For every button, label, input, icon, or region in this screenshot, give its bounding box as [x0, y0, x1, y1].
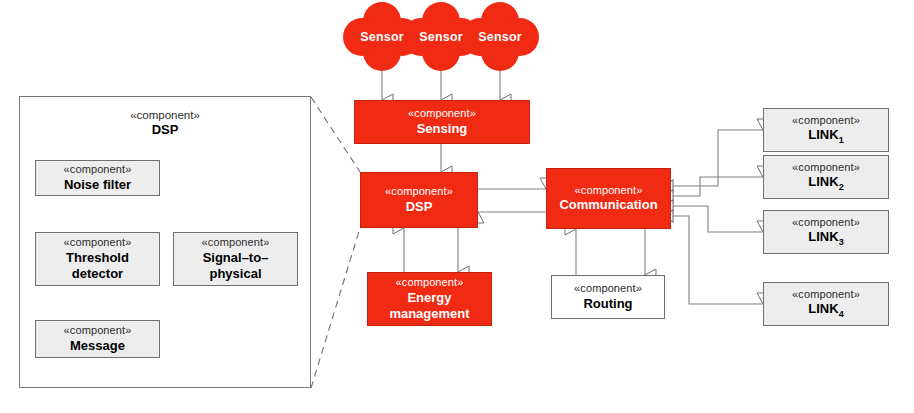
component-name: Communication: [559, 197, 657, 213]
component-sensing[interactable]: «component» Sensing: [354, 100, 530, 144]
component-name-line1: Energy: [407, 290, 451, 306]
component-signal-to-physical[interactable]: «component» Signal–to– physical: [173, 232, 298, 286]
link-name: LINK: [808, 301, 838, 316]
component-stereotype: «component»: [64, 163, 132, 176]
component-noise-filter[interactable]: «component» Noise filter: [35, 160, 160, 196]
link-name: LINK: [808, 229, 838, 244]
component-stereotype: «component»: [202, 236, 270, 249]
edge-communication-link4: [671, 216, 763, 304]
component-name-line2: physical: [209, 266, 261, 282]
detail-panel-stereotype: «component»: [20, 108, 310, 122]
zoom-line-bottom: [311, 228, 360, 388]
detail-panel-title: «component» DSP: [20, 108, 310, 139]
component-stereotype: «component»: [575, 184, 643, 197]
component-stereotype: «component»: [64, 236, 132, 249]
component-link-3[interactable]: «component» LINK3: [763, 210, 889, 254]
component-stereotype: «component»: [408, 107, 476, 120]
link-name: LINK: [808, 174, 838, 189]
detail-panel-name: DSP: [20, 122, 310, 138]
component-name: DSP: [406, 199, 433, 215]
component-message[interactable]: «component» Message: [35, 320, 160, 358]
component-name: LINK2: [808, 174, 843, 193]
uml-component-diagram: Sensor Sensor Sensor: [0, 0, 914, 413]
link-index: 4: [839, 309, 844, 319]
component-dsp[interactable]: «component» DSP: [360, 172, 478, 228]
link-index: 2: [839, 182, 844, 192]
edge-communication-link2: [671, 177, 763, 196]
component-stereotype: «component»: [792, 161, 860, 174]
component-name: LINK4: [808, 301, 843, 320]
component-name: LINK3: [808, 229, 843, 248]
component-communication[interactable]: «component» Communication: [546, 168, 671, 229]
component-link-1[interactable]: «component» LINK1: [763, 108, 889, 152]
sensor-label: Sensor: [458, 2, 542, 72]
component-routing[interactable]: «component» Routing: [551, 275, 665, 319]
component-stereotype: «component»: [385, 185, 453, 198]
component-stereotype: «component»: [792, 216, 860, 229]
component-stereotype: «component»: [792, 288, 860, 301]
sensor-node-3[interactable]: Sensor: [458, 2, 542, 72]
component-stereotype: «component»: [64, 324, 132, 337]
component-energy-management[interactable]: «component» Energy management: [367, 272, 492, 326]
component-name-line2: detector: [72, 266, 123, 282]
component-name: Routing: [583, 296, 632, 312]
component-stereotype: «component»: [574, 282, 642, 295]
component-name: LINK1: [808, 127, 843, 146]
component-name: Noise filter: [64, 177, 131, 193]
component-name: Sensing: [417, 121, 468, 137]
edge-communication-link3: [671, 206, 763, 232]
component-stereotype: «component»: [792, 114, 860, 127]
component-stereotype: «component»: [396, 276, 464, 289]
component-threshold-detector[interactable]: «component» Threshold detector: [35, 232, 160, 286]
component-name-line2: management: [389, 306, 469, 322]
link-index: 3: [839, 237, 844, 247]
component-link-4[interactable]: «component» LINK4: [763, 282, 889, 326]
component-name: Message: [70, 338, 125, 354]
component-name-line1: Signal–to–: [203, 250, 269, 266]
edge-communication-link1: [671, 130, 763, 186]
zoom-line-top: [311, 97, 360, 172]
link-index: 1: [839, 135, 844, 145]
component-link-2[interactable]: «component» LINK2: [763, 155, 889, 199]
component-name-line1: Threshold: [66, 250, 129, 266]
link-name: LINK: [808, 127, 838, 142]
